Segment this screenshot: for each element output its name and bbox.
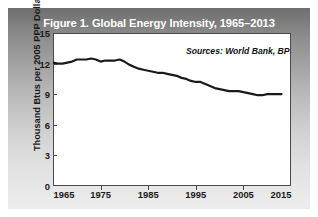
y-tick-label: 0 bbox=[28, 181, 50, 192]
x-tick-label: 1965 bbox=[54, 189, 75, 200]
y-axis-tick-labels: 15 12 9 6 3 0 bbox=[24, 33, 50, 186]
series-polyline bbox=[53, 59, 281, 96]
y-tick-label: 12 bbox=[28, 58, 50, 69]
x-axis-tick-labels: 1965 1975 1985 1995 2005 2015 bbox=[53, 188, 291, 204]
x-tick-label: 1975 bbox=[90, 189, 111, 200]
y-tick-label: 9 bbox=[28, 89, 50, 100]
energy-intensity-line-series bbox=[53, 33, 291, 186]
y-tick-label: 6 bbox=[28, 119, 50, 130]
x-tick-label: 1995 bbox=[185, 189, 206, 200]
x-tick-label: 2015 bbox=[271, 189, 292, 200]
y-tick-label: 3 bbox=[28, 150, 50, 161]
x-tick-label: 2005 bbox=[233, 189, 254, 200]
figure-title: Figure 1. Global Energy Intensity, 1965–… bbox=[8, 13, 310, 33]
y-tick-label: 15 bbox=[28, 28, 50, 39]
x-tick-label: 1985 bbox=[138, 189, 159, 200]
figure-container: Figure 1. Global Energy Intensity, 1965–… bbox=[0, 0, 318, 217]
